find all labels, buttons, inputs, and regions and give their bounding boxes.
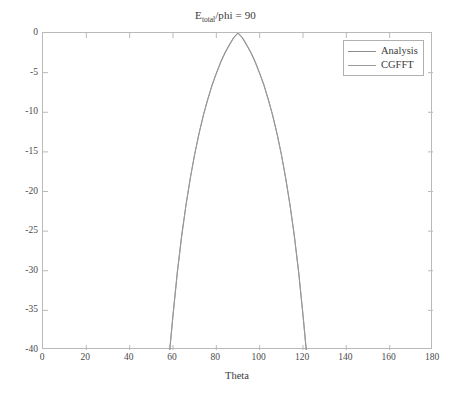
series-line (170, 33, 307, 350)
x-tick-label: 40 (124, 352, 134, 362)
y-tick-label: 0 (0, 27, 38, 37)
y-tick-label: -40 (0, 344, 38, 354)
plot-area (42, 32, 432, 349)
title-rest: /phi = 90 (215, 9, 256, 21)
title-main: E (195, 9, 202, 21)
chart-title: Etotal/phi = 90 (0, 9, 451, 24)
title-subscript: total (202, 15, 215, 24)
legend-item[interactable]: Analysis (348, 44, 418, 58)
axis-ticks (43, 33, 433, 350)
figure-window: Etotal/phi = 90 0-5-10-15-20-25-30-35-40… (0, 0, 451, 394)
x-tick-label: 20 (81, 352, 91, 362)
y-tick-label: -25 (0, 225, 38, 235)
x-tick-label: 80 (211, 352, 221, 362)
x-tick-label: 160 (382, 352, 396, 362)
x-tick-label: 100 (252, 352, 266, 362)
legend-item[interactable]: CGFFT (348, 58, 418, 72)
legend-label: Analysis (381, 46, 418, 57)
y-tick-label: -10 (0, 106, 38, 116)
x-tick-label: 180 (425, 352, 439, 362)
y-tick-label: -5 (0, 67, 38, 77)
y-tick-label: -20 (0, 186, 38, 196)
x-tick-label: 140 (338, 352, 352, 362)
legend-box: AnalysisCGFFT (343, 40, 424, 76)
legend-label: CGFFT (381, 60, 414, 71)
data-series-group (170, 33, 307, 350)
x-tick-label: 0 (40, 352, 45, 362)
x-tick-label: 60 (167, 352, 177, 362)
y-tick-label: -35 (0, 304, 38, 314)
legend-line-swatch (348, 65, 376, 66)
plot-canvas (43, 33, 433, 350)
series-line (170, 33, 307, 350)
x-tick-label: 120 (295, 352, 309, 362)
x-axis-label: Theta (42, 370, 432, 381)
y-tick-label: -15 (0, 146, 38, 156)
legend-line-swatch (348, 51, 376, 52)
y-tick-label: -30 (0, 265, 38, 275)
